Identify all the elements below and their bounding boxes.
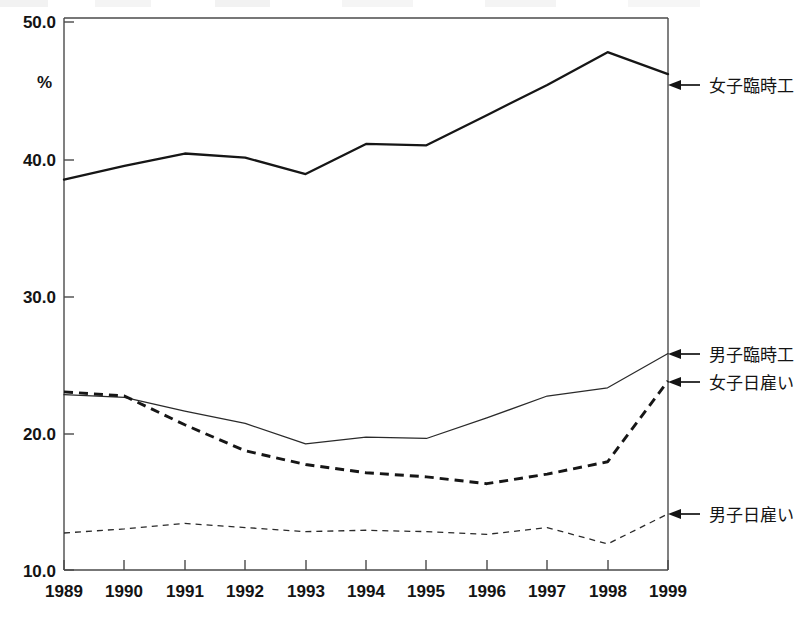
annotation-group: 女子臨時工 男子臨時工 女子日雇い 男子日雇い — [668, 77, 794, 525]
x-tick-label-1995: 1995 — [407, 582, 445, 601]
series-label-1: 男子臨時工 — [709, 346, 794, 365]
series-group — [64, 52, 668, 544]
annotation-3: 男子日雇い — [668, 506, 794, 525]
x-tick-label-1992: 1992 — [226, 582, 264, 601]
x-axis-labels: 1989 1990 1991 1992 1993 1994 1995 1996 … — [45, 582, 687, 601]
arrow-left-icon — [668, 377, 681, 387]
annotation-1: 男子臨時工 — [668, 346, 794, 365]
series-label-3: 男子日雇い — [709, 506, 794, 525]
y-tick-label-10: 10.0 — [23, 562, 56, 581]
x-axis-ticks — [64, 560, 668, 570]
y-tick-label-40: 40.0 — [23, 151, 56, 170]
series-label-0: 女子臨時工 — [709, 77, 794, 96]
arrow-left-icon — [668, 509, 681, 519]
y-tick-label-30: 30.0 — [23, 288, 56, 307]
series-line-1 — [64, 354, 668, 444]
x-tick-label-1991: 1991 — [166, 582, 204, 601]
x-tick-label-1989: 1989 — [45, 582, 83, 601]
arrow-left-icon — [668, 349, 681, 359]
x-tick-label-1990: 1990 — [105, 582, 143, 601]
y-axis-unit-label: % — [37, 73, 52, 92]
arrow-left-icon — [668, 80, 681, 90]
y-tick-label-50: 50.0 — [23, 13, 56, 32]
x-tick-label-1997: 1997 — [528, 582, 566, 601]
plot-frame — [64, 18, 668, 570]
series-line-3 — [64, 514, 668, 544]
x-tick-label-1996: 1996 — [468, 582, 506, 601]
annotation-2: 女子日雇い — [668, 374, 794, 393]
y-axis-ticks — [64, 22, 74, 570]
series-line-0 — [64, 52, 668, 179]
annotation-0: 女子臨時工 — [668, 77, 794, 96]
series-label-2: 女子日雇い — [709, 374, 794, 393]
y-axis-labels: 50.0 % 40.0 30.0 20.0 10.0 — [23, 13, 56, 581]
x-tick-label-1998: 1998 — [589, 582, 627, 601]
x-tick-label-1993: 1993 — [287, 582, 325, 601]
line-chart-svg: 50.0 % 40.0 30.0 20.0 10.0 1989 1990 199… — [0, 0, 795, 619]
series-line-2 — [64, 381, 668, 484]
x-tick-label-1994: 1994 — [347, 582, 385, 601]
y-tick-label-20: 20.0 — [23, 425, 56, 444]
chart-figure: 50.0 % 40.0 30.0 20.0 10.0 1989 1990 199… — [0, 0, 795, 619]
x-tick-label-1999: 1999 — [649, 582, 687, 601]
